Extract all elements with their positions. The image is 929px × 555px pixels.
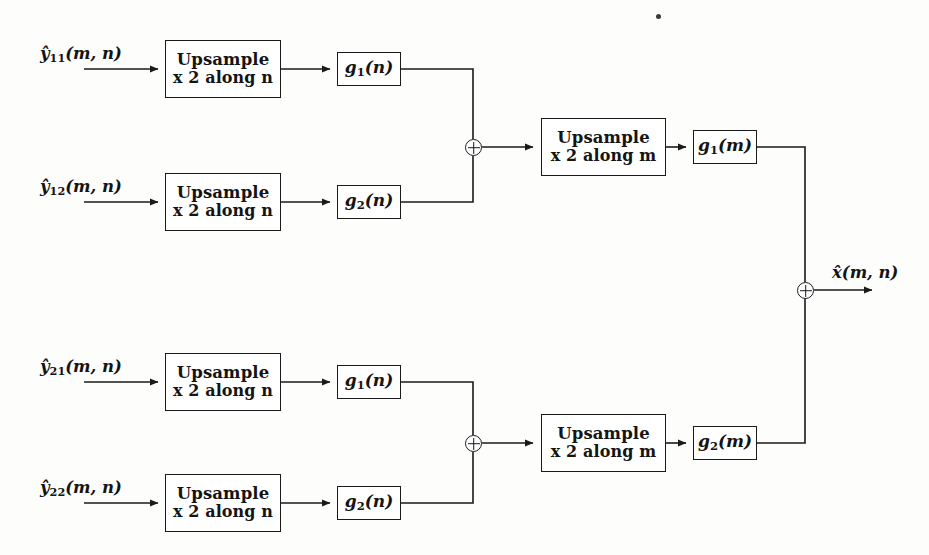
filter-g2-n-row2: g2(n) <box>337 185 401 219</box>
upsample-line1: Upsample <box>177 51 269 69</box>
upsample-line2: x 2 along n <box>173 503 273 521</box>
upsample-line2: x 2 along n <box>173 202 273 220</box>
connection-wires <box>0 0 929 555</box>
filter-g2-n-row4: g2(n) <box>337 486 401 520</box>
input-label-y22: ŷ22(m, n) <box>40 478 122 499</box>
scan-speck <box>656 14 661 19</box>
upsample-along-n-row4: Upsample x 2 along n <box>165 474 281 532</box>
upsample-along-m-top: Upsample x 2 along m <box>541 118 666 176</box>
filter-g1-n-row1: g1(n) <box>337 52 401 86</box>
output-label-xhat: x̂(m, n) <box>832 263 898 282</box>
filter-label: g2(m) <box>698 432 752 453</box>
upsample-along-n-row2: Upsample x 2 along n <box>165 173 281 231</box>
input-label-y21: ŷ21(m, n) <box>40 357 122 378</box>
upsample-line1: Upsample <box>177 485 269 503</box>
filter-label: g1(n) <box>345 371 393 392</box>
filter-g1-n-row3: g1(n) <box>337 365 401 399</box>
input-label-y12: ŷ12(m, n) <box>40 177 122 198</box>
filter-label: g1(m) <box>698 136 752 157</box>
upsample-along-n-row1: Upsample x 2 along n <box>165 40 281 98</box>
upsample-line1: Upsample <box>557 425 649 443</box>
filter-g1-m-top: g1(m) <box>693 130 757 164</box>
filter-bank-diagram: ŷ11(m, n) ŷ12(m, n) ŷ21(m, n) ŷ22(m, n) … <box>0 0 929 555</box>
adder-top <box>465 139 482 156</box>
adder-bottom <box>465 435 482 452</box>
upsample-line1: Upsample <box>557 129 649 147</box>
filter-label: g1(n) <box>345 58 393 79</box>
upsample-line2: x 2 along m <box>551 443 656 461</box>
filter-label: g2(n) <box>345 191 393 212</box>
upsample-along-m-bottom: Upsample x 2 along m <box>541 414 666 472</box>
upsample-line2: x 2 along n <box>173 382 273 400</box>
filter-g2-m-bottom: g2(m) <box>693 426 757 460</box>
upsample-line2: x 2 along n <box>173 69 273 87</box>
upsample-line2: x 2 along m <box>551 147 656 165</box>
filter-label: g2(n) <box>345 492 393 513</box>
upsample-along-n-row3: Upsample x 2 along n <box>165 353 281 411</box>
upsample-line1: Upsample <box>177 184 269 202</box>
input-label-y11: ŷ11(m, n) <box>40 44 122 65</box>
adder-output <box>797 282 814 299</box>
upsample-line1: Upsample <box>177 364 269 382</box>
